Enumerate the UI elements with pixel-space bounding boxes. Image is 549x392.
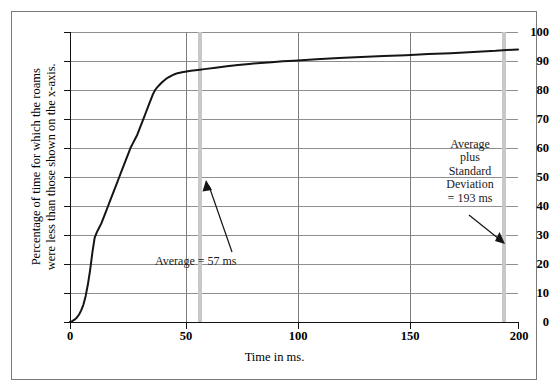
x-tick-label-100: 100 bbox=[268, 330, 328, 343]
annotation-stddev-line-1: Average bbox=[424, 138, 516, 151]
gridline-y-100 bbox=[70, 32, 518, 33]
y-tick-100 bbox=[64, 32, 70, 33]
gridline-x-50 bbox=[186, 32, 187, 322]
annotation-stddev-line-4: Deviation bbox=[424, 178, 516, 191]
y-tick-90 bbox=[64, 61, 70, 62]
y-tick-50 bbox=[64, 177, 70, 178]
y-tick-label-0: 0 bbox=[497, 316, 549, 329]
x-axis-title: Time in ms. bbox=[0, 350, 549, 365]
gridline-y-10 bbox=[70, 293, 518, 294]
annotation-stddev-line-2: plus bbox=[424, 151, 516, 164]
gridline-y-20 bbox=[70, 264, 518, 265]
gridline-y-30 bbox=[70, 235, 518, 236]
y-tick-30 bbox=[64, 235, 70, 236]
x-tick-label-50: 50 bbox=[156, 330, 216, 343]
gridline-x-150 bbox=[410, 32, 411, 322]
annotation-average-label: Average = 57 ms bbox=[155, 255, 237, 268]
y-tick-label-30: 30 bbox=[497, 229, 549, 242]
x-axis-line bbox=[70, 322, 519, 323]
y-tick-40 bbox=[64, 206, 70, 207]
y-tick-label-90: 90 bbox=[497, 55, 549, 68]
annotation-stddev-line-3: Standard bbox=[424, 165, 516, 178]
y-axis-title-line-2: were less than those shown on the x-axis… bbox=[44, 17, 59, 317]
annotation-stddev-line-5: = 193 ms bbox=[424, 192, 516, 205]
y-axis-title: Percentage of time for which the roams w… bbox=[29, 17, 59, 317]
y-tick-80 bbox=[64, 90, 70, 91]
gridline-y-80 bbox=[70, 90, 518, 91]
y-tick-10 bbox=[64, 293, 70, 294]
x-tick-label-0: 0 bbox=[40, 330, 100, 343]
y-tick-label-20: 20 bbox=[497, 258, 549, 271]
y-tick-label-70: 70 bbox=[497, 113, 549, 126]
chart-figure: 100 90 80 70 60 50 40 30 20 10 0 0 50 10… bbox=[0, 0, 549, 392]
y-tick-60 bbox=[64, 148, 70, 149]
y-tick-label-80: 80 bbox=[497, 84, 549, 97]
gridline-x-100 bbox=[298, 32, 299, 322]
y-axis-line bbox=[70, 32, 71, 323]
x-tick-label-150: 150 bbox=[380, 330, 440, 343]
y-axis-title-line-1: Percentage of time for which the roams bbox=[29, 17, 44, 317]
annotation-stddev-label: Average plus Standard Deviation = 193 ms bbox=[424, 138, 516, 205]
gridline-y-70 bbox=[70, 119, 518, 120]
y-tick-70 bbox=[64, 119, 70, 120]
gridline-y-90 bbox=[70, 61, 518, 62]
marker-band-average bbox=[198, 32, 202, 322]
y-tick-label-10: 10 bbox=[497, 287, 549, 300]
gridline-y-40 bbox=[70, 206, 518, 207]
x-tick-label-200: 200 bbox=[489, 330, 549, 343]
y-tick-label-100: 100 bbox=[497, 26, 549, 39]
y-tick-20 bbox=[64, 264, 70, 265]
